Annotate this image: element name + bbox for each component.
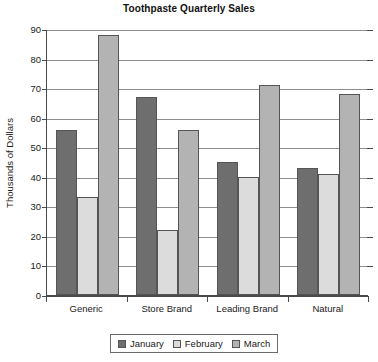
legend-label: January	[130, 338, 164, 349]
x-axis-tick	[288, 296, 289, 302]
bar	[259, 85, 280, 295]
legend-items: JanuaryFebruaryMarch	[118, 338, 270, 349]
legend-label: February	[185, 338, 223, 349]
y-axis-tick-label: 40	[3, 173, 41, 183]
bar	[318, 174, 339, 295]
legend-swatch-icon	[232, 340, 240, 348]
legend-label: March	[244, 338, 270, 349]
y-axis-tick-label: 0	[3, 291, 41, 301]
x-axis-category-label: Leading Brand	[207, 303, 288, 314]
y-axis-tick-label: 30	[3, 202, 41, 212]
y-axis-tick-label: 50	[3, 143, 41, 153]
y-axis-tick-label: 90	[3, 25, 41, 35]
bar	[56, 130, 77, 296]
bar	[339, 94, 360, 295]
bar	[136, 97, 157, 295]
chart-legend: JanuaryFebruaryMarch	[110, 334, 278, 353]
legend-item: March	[232, 338, 270, 349]
legend-swatch-icon	[118, 340, 126, 348]
bar	[98, 35, 119, 295]
chart-title: Toothpaste Quarterly Sales	[0, 3, 378, 14]
bar-chart: Toothpaste Quarterly Sales Thousands of …	[0, 0, 378, 362]
bar	[217, 162, 238, 295]
y-axis-tick-label: 80	[3, 55, 41, 65]
bar	[77, 197, 98, 295]
bars-layer	[47, 30, 368, 295]
y-axis-tick-labels: 0102030405060708090	[0, 30, 41, 296]
x-axis-tick	[368, 296, 369, 302]
x-axis-tick	[127, 296, 128, 302]
x-axis-category-label: Natural	[288, 303, 369, 314]
x-axis-tick	[46, 296, 47, 302]
gridline	[47, 296, 369, 297]
x-axis-category-label: Store Brand	[127, 303, 208, 314]
y-axis-tick-label: 10	[3, 261, 41, 271]
x-axis-tick	[207, 296, 208, 302]
legend-item: February	[173, 338, 223, 349]
y-axis-tick-label: 70	[3, 84, 41, 94]
legend-item: January	[118, 338, 164, 349]
x-axis-category-label: Generic	[46, 303, 127, 314]
y-axis-tick-label: 60	[3, 114, 41, 124]
y-axis-tick-label: 20	[3, 232, 41, 242]
bar	[238, 177, 259, 295]
bar	[178, 130, 199, 296]
plot-area	[46, 30, 368, 296]
legend-swatch-icon	[173, 340, 181, 348]
bar	[157, 230, 178, 295]
bar	[297, 168, 318, 295]
